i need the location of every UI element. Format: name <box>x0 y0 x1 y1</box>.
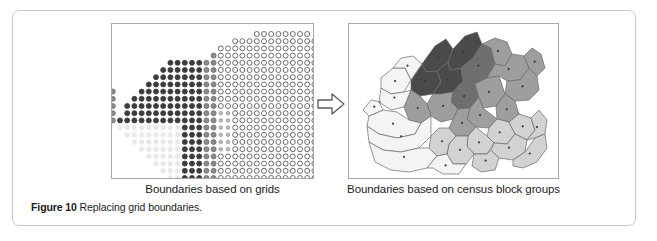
grid-dot-map-icon <box>112 24 313 178</box>
figure-card: Boundaries based on grids Boundaries bas… <box>12 10 636 226</box>
map-panel-box <box>348 23 559 179</box>
grid-panel-box <box>111 23 314 179</box>
figure-caption-number: Figure 10 <box>31 201 77 213</box>
map-panel-caption: Boundaries based on census block groups <box>323 183 584 195</box>
figure-caption: Figure 10 Replacing grid boundaries. <box>31 201 202 213</box>
figure-panels: Boundaries based on grids Boundaries bas… <box>13 11 637 183</box>
figure-caption-text: Replacing grid boundaries. <box>80 201 202 213</box>
grid-panel-caption: Boundaries based on grids <box>111 183 314 195</box>
right-arrow-icon <box>316 91 346 117</box>
census-block-group-map-icon <box>349 24 558 178</box>
